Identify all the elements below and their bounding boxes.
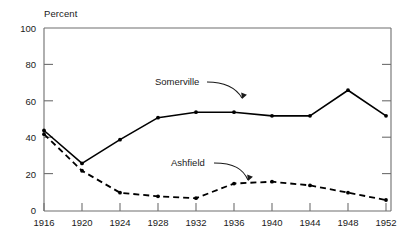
data-point bbox=[232, 182, 236, 186]
data-point bbox=[270, 114, 274, 118]
data-point bbox=[194, 110, 198, 114]
y-axis-ticks-right bbox=[382, 64, 391, 173]
axis-frame bbox=[44, 28, 391, 211]
annotation-arrow-somerville bbox=[207, 82, 247, 100]
data-point bbox=[346, 191, 350, 195]
data-point bbox=[308, 114, 312, 118]
data-point bbox=[156, 194, 160, 198]
series-path-ashfield bbox=[44, 134, 386, 200]
data-point bbox=[42, 129, 46, 133]
data-point bbox=[384, 198, 388, 202]
chart-figure: Percent 100 80 60 40 20 0 1916 1920 1924… bbox=[0, 0, 415, 242]
plot-area bbox=[0, 0, 415, 242]
annotation-arrow-ashfield bbox=[214, 163, 253, 182]
data-point bbox=[384, 114, 388, 118]
series-path-somerville bbox=[44, 90, 386, 163]
data-point bbox=[118, 138, 122, 142]
y-axis-ticks bbox=[44, 64, 53, 173]
data-point bbox=[42, 132, 46, 136]
data-point bbox=[118, 191, 122, 195]
x-axis-ticks bbox=[44, 203, 386, 211]
series-line-ashfield bbox=[42, 132, 388, 202]
data-point bbox=[80, 169, 84, 173]
data-point bbox=[156, 116, 160, 120]
data-point bbox=[308, 183, 312, 187]
data-point bbox=[270, 180, 274, 184]
data-point bbox=[346, 88, 350, 92]
series-line-somerville bbox=[42, 88, 388, 165]
data-point bbox=[194, 196, 198, 200]
data-point bbox=[232, 110, 236, 114]
data-point bbox=[80, 162, 84, 166]
